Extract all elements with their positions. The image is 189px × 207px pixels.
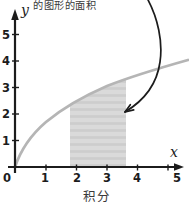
x-tick-label-3: 3 xyxy=(103,171,111,185)
x-tick-label-1: 1 xyxy=(41,171,49,185)
y-tick-label-2: 2 xyxy=(2,107,10,121)
x-axis-tick-labels: 0 1 2 3 4 5 xyxy=(3,171,181,185)
x-tick-label-0: 0 xyxy=(3,171,11,185)
integral-figure: 0 1 2 3 4 5 1 2 3 4 5 y x 的图形的面积 积分 xyxy=(0,0,189,207)
top-caption: 的图形的面积 xyxy=(33,0,96,11)
bottom-caption: 积分 xyxy=(83,189,112,204)
annotation-arrow xyxy=(125,0,161,112)
x-axis-arrowhead-icon xyxy=(174,163,184,171)
annotation-arrow-curve xyxy=(125,0,161,112)
y-tick-label-5: 5 xyxy=(2,28,10,42)
y-tick-label-3: 3 xyxy=(2,81,10,95)
y-tick-label-4: 4 xyxy=(2,54,10,68)
y-axis-arrowhead-icon xyxy=(11,9,19,20)
x-tick-label-4: 4 xyxy=(133,171,141,185)
y-axis-label: y xyxy=(20,2,30,18)
y-axis-tick-labels: 1 2 3 4 5 xyxy=(2,28,10,148)
x-tick-label-2: 2 xyxy=(73,171,81,185)
y-tick-label-1: 1 xyxy=(2,134,10,148)
shaded-integral-region xyxy=(70,79,126,168)
y-axis xyxy=(11,9,19,173)
figure-svg: 0 1 2 3 4 5 1 2 3 4 5 y x 的图形的面积 积分 xyxy=(0,0,189,207)
x-axis-label: x xyxy=(170,144,178,160)
x-tick-label-5: 5 xyxy=(173,171,181,185)
